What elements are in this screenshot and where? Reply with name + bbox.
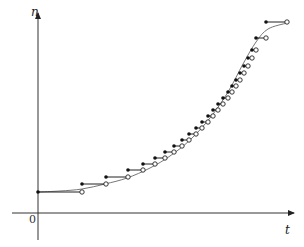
open-circle	[187, 138, 191, 142]
filled-dot	[80, 182, 84, 186]
open-circle	[126, 175, 130, 179]
open-circle	[104, 182, 108, 186]
open-circle	[221, 102, 225, 106]
open-circle	[194, 132, 198, 136]
filled-dot	[200, 120, 204, 124]
open-circle	[153, 162, 157, 166]
open-circle	[254, 48, 258, 52]
filled-dot	[194, 126, 198, 130]
filled-dot	[104, 175, 108, 179]
open-circle	[172, 150, 176, 154]
filled-dot	[250, 48, 254, 52]
open-circle	[163, 156, 167, 160]
open-circle	[234, 84, 238, 88]
smooth-curve	[38, 23, 287, 192]
filled-dot	[246, 56, 250, 60]
filled-dot	[254, 36, 258, 40]
filled-dot	[234, 78, 238, 82]
y-axis-label: n	[31, 5, 39, 19]
filled-dot	[226, 90, 230, 94]
open-circle	[211, 114, 215, 118]
filled-dot	[180, 138, 184, 142]
filled-dot	[126, 168, 130, 172]
filled-dot	[187, 132, 191, 136]
open-circle	[180, 144, 184, 148]
filled-dot	[221, 96, 225, 100]
step-segments	[36, 20, 289, 194]
open-circle	[285, 20, 289, 24]
open-circle	[226, 96, 230, 100]
open-circle	[206, 120, 210, 124]
open-circle	[264, 36, 268, 40]
step-function-diagram	[0, 0, 304, 247]
filled-dot	[141, 162, 145, 166]
open-circle	[250, 56, 254, 60]
origin-label: 0	[29, 213, 36, 226]
open-circle	[216, 108, 220, 112]
open-circle	[230, 90, 234, 94]
filled-dot	[163, 150, 167, 154]
filled-dot	[230, 84, 234, 88]
open-circle	[246, 64, 250, 68]
filled-dot	[216, 102, 220, 106]
open-circle	[141, 168, 145, 172]
open-circle	[242, 71, 246, 75]
x-axis-label: t	[285, 223, 290, 237]
open-circle	[200, 126, 204, 130]
filled-dot	[36, 190, 40, 194]
filled-dot	[264, 20, 268, 24]
filled-dot	[172, 144, 176, 148]
filled-dot	[211, 108, 215, 112]
filled-dot	[242, 64, 246, 68]
filled-dot	[238, 71, 242, 75]
open-circle	[80, 190, 84, 194]
filled-dot	[153, 156, 157, 160]
filled-dot	[206, 114, 210, 118]
open-circle	[238, 78, 242, 82]
